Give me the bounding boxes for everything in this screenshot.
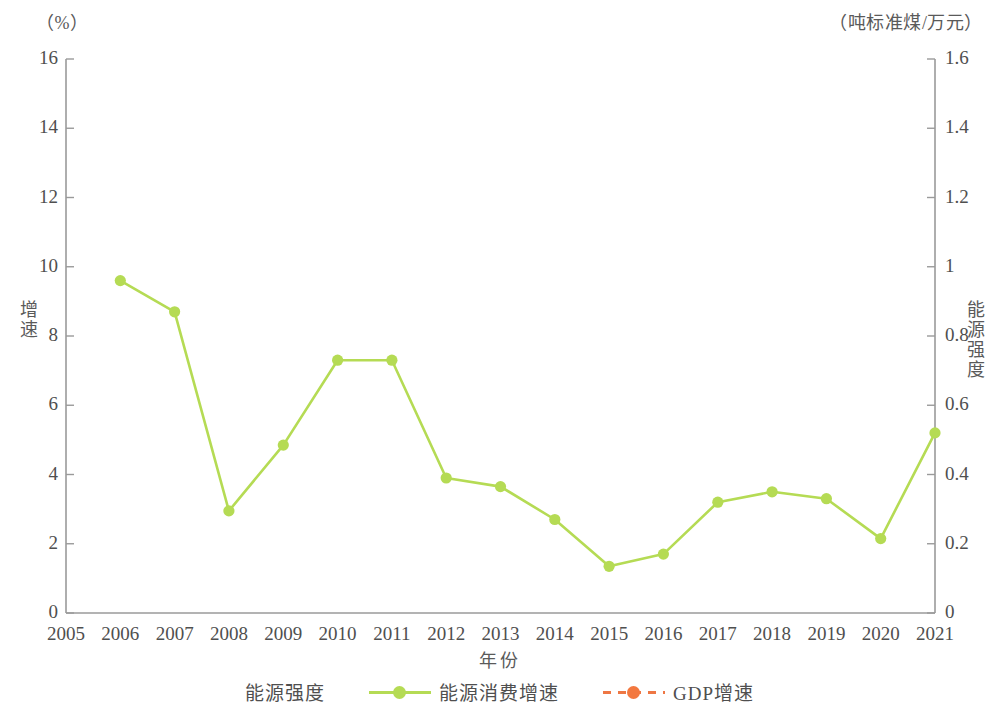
data-point-能源消费增速-2020 xyxy=(875,533,886,544)
right-tick-label-0.2: 0.2 xyxy=(945,532,969,554)
data-point-能源消费增速-2021 xyxy=(929,427,940,438)
series-line-能源消费增速 xyxy=(120,281,935,567)
right-tick-label-0: 0 xyxy=(945,601,955,623)
legend-label-gdp-growth: GDP增速 xyxy=(673,678,754,705)
data-point-能源消费增速-2018 xyxy=(767,486,778,497)
legend-entry-gdp-growth[interactable]: GDP增速 xyxy=(603,678,754,705)
data-point-能源消费增速-2019 xyxy=(821,493,832,504)
left-tick-label-12: 12 xyxy=(12,186,58,208)
left-tick-label-14: 14 xyxy=(12,116,58,138)
right-tick-label-1.4: 1.4 xyxy=(945,116,969,138)
data-point-能源消费增速-2013 xyxy=(495,481,506,492)
right-tick-label-0.6: 0.6 xyxy=(945,393,969,415)
data-point-能源消费增速-2017 xyxy=(712,497,723,508)
legend-entry-energy-consumption-growth[interactable]: 能源消费增速 xyxy=(369,678,559,705)
chart-container: （%） （吨标准煤/万元） 增速 能源强度 年份 024681012141600… xyxy=(0,0,999,708)
right-tick-label-1.6: 1.6 xyxy=(945,47,969,69)
left-tick-label-0: 0 xyxy=(12,601,58,623)
data-point-能源消费增速-2010 xyxy=(332,355,343,366)
data-point-能源消费增速-2006 xyxy=(115,275,126,286)
data-point-能源消费增速-2014 xyxy=(549,514,560,525)
legend-entry-energy-intensity: 能源强度 xyxy=(245,678,325,705)
left-tick-label-16: 16 xyxy=(12,47,58,69)
legend-label-energy-intensity: 能源强度 xyxy=(245,678,325,705)
right-tick-label-1.2: 1.2 xyxy=(945,186,969,208)
left-tick-label-4: 4 xyxy=(12,463,58,485)
left-tick-label-6: 6 xyxy=(12,393,58,415)
legend-swatch-orange-dashed-line xyxy=(603,685,665,699)
data-point-能源消费增速-2012 xyxy=(441,472,452,483)
right-tick-label-0.8: 0.8 xyxy=(945,324,969,346)
right-tick-label-0.4: 0.4 xyxy=(945,463,969,485)
left-tick-label-2: 2 xyxy=(12,532,58,554)
data-point-能源消费增速-2015 xyxy=(604,561,615,572)
data-point-能源消费增速-2011 xyxy=(386,355,397,366)
legend-swatch-green-solid-line xyxy=(369,685,431,699)
legend-label-energy-consumption-growth: 能源消费增速 xyxy=(439,678,559,705)
plot-area xyxy=(0,0,999,708)
left-tick-label-8: 8 xyxy=(12,324,58,346)
x-tick-label-2021: 2021 xyxy=(900,623,970,645)
data-point-能源消费增速-2008 xyxy=(223,505,234,516)
right-tick-label-1: 1 xyxy=(945,255,955,277)
data-point-能源消费增速-2016 xyxy=(658,549,669,560)
left-tick-label-10: 10 xyxy=(12,255,58,277)
data-point-能源消费增速-2009 xyxy=(278,440,289,451)
data-point-能源消费增速-2007 xyxy=(169,306,180,317)
chart-legend: 能源强度 能源消费增速 GDP增速 xyxy=(0,678,999,705)
